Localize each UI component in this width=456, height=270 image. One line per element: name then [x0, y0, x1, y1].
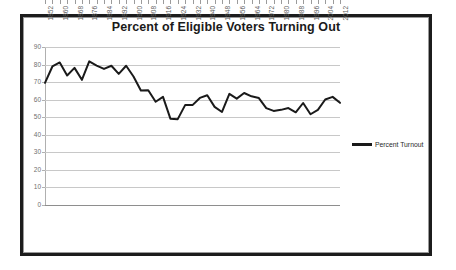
x-tick-label-1876: 1876 [92, 6, 99, 20]
x-tick-mark-1856 [52, 0, 53, 4]
x-tick-label-1972: 1972 [269, 6, 276, 20]
x-tick-mark-1980 [281, 0, 282, 4]
x-tick-mark-1988 [296, 0, 297, 4]
y-tick-label-30: 30 [34, 149, 41, 156]
series-line-percent-turnout [45, 47, 340, 205]
x-tick-label-1988: 1988 [299, 6, 306, 20]
x-tick-mark-1984 [288, 0, 289, 4]
x-tick-mark-1972 [266, 0, 267, 4]
legend-swatch-percent-turnout [352, 143, 372, 146]
x-tick-mark-1956 [237, 0, 238, 4]
x-tick-label-1940: 1940 [210, 6, 217, 20]
x-tick-mark-1888 [111, 0, 112, 4]
x-tick-label-1852: 1852 [48, 6, 55, 20]
x-tick-mark-1944 [215, 0, 216, 4]
x-tick-label-1908: 1908 [151, 6, 158, 20]
x-tick-label-1860: 1860 [63, 6, 70, 20]
x-tick-mark-1960 [244, 0, 245, 4]
x-tick-mark-1908 [148, 0, 149, 4]
y-tick-label-90: 90 [34, 44, 41, 51]
y-tick-label-80: 80 [34, 61, 41, 68]
x-tick-mark-1968 [259, 0, 260, 4]
x-tick-mark-2012 [340, 0, 341, 4]
x-tick-label-1916: 1916 [166, 6, 173, 20]
y-tick-label-20: 20 [34, 167, 41, 174]
x-tick-mark-1916 [163, 0, 164, 4]
x-axis-line [45, 205, 340, 206]
x-tick-mark-1928 [185, 0, 186, 4]
x-tick-mark-1940 [207, 0, 208, 4]
x-tick-mark-1876 [89, 0, 90, 4]
y-tick-label-0: 0 [37, 202, 41, 209]
x-tick-label-1964: 1964 [255, 6, 262, 20]
x-tick-mark-1896 [126, 0, 127, 4]
plot-area: 0102030405060708090 [45, 47, 340, 205]
x-tick-mark-1964 [252, 0, 253, 4]
x-tick-mark-1996 [311, 0, 312, 4]
x-tick-mark-1892 [119, 0, 120, 4]
y-tick-label-10: 10 [34, 184, 41, 191]
y-tick-label-40: 40 [34, 132, 41, 139]
x-tick-mark-1900 [134, 0, 135, 4]
x-tick-mark-1864 [67, 0, 68, 4]
x-tick-label-1980: 1980 [284, 6, 291, 20]
y-tick-label-70: 70 [34, 79, 41, 86]
x-tick-mark-1936 [200, 0, 201, 4]
x-tick-mark-1948 [222, 0, 223, 4]
x-tick-label-1892: 1892 [122, 6, 129, 20]
x-tick-mark-1952 [229, 0, 230, 4]
x-tick-label-1932: 1932 [196, 6, 203, 20]
x-tick-mark-1880 [97, 0, 98, 4]
x-tick-mark-1872 [82, 0, 83, 4]
x-tick-mark-1860 [60, 0, 61, 4]
x-tick-mark-1932 [193, 0, 194, 4]
x-tick-label-1900: 1900 [137, 6, 144, 20]
x-tick-mark-1852 [45, 0, 46, 4]
chart-figure: Percent of Eligible Voters Turning Out 0… [0, 0, 456, 270]
x-tick-label-1996: 1996 [314, 6, 321, 20]
y-tick-label-50: 50 [34, 114, 41, 121]
x-tick-label-1884: 1884 [107, 6, 114, 20]
x-tick-label-1956: 1956 [240, 6, 247, 20]
chart-legend: Percent Turnout [352, 141, 423, 148]
x-tick-mark-1884 [104, 0, 105, 4]
x-tick-mark-1920 [170, 0, 171, 4]
x-tick-mark-1868 [75, 0, 76, 4]
x-tick-label-2004: 2004 [328, 6, 335, 20]
x-tick-mark-1992 [303, 0, 304, 4]
x-tick-mark-2008 [333, 0, 334, 4]
legend-label-percent-turnout: Percent Turnout [375, 141, 423, 148]
x-tick-mark-1976 [274, 0, 275, 4]
x-tick-mark-2004 [325, 0, 326, 4]
x-tick-label-1924: 1924 [181, 6, 188, 20]
chart-title: Percent of Eligible Voters Turning Out [20, 20, 432, 34]
x-tick-label-1868: 1868 [78, 6, 85, 20]
x-tick-label-1948: 1948 [225, 6, 232, 20]
x-tick-label-2012: 2012 [343, 6, 350, 20]
x-tick-mark-1912 [156, 0, 157, 4]
x-tick-mark-2000 [318, 0, 319, 4]
x-tick-mark-1924 [178, 0, 179, 4]
x-tick-mark-1904 [141, 0, 142, 4]
y-tick-label-60: 60 [34, 96, 41, 103]
